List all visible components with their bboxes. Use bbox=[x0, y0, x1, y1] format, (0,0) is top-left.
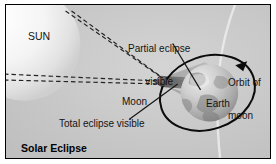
partial-eclipse-label-line1: Partial eclipse bbox=[128, 43, 190, 54]
figure-caption: Solar Eclipse bbox=[21, 143, 87, 154]
total-eclipse-label: Total eclipse visible bbox=[59, 118, 145, 129]
orbit-label-line1: Orbit of bbox=[228, 77, 261, 88]
sun-label: SUN bbox=[28, 31, 50, 42]
orbit-of-moon-label: Orbit of moon bbox=[228, 55, 261, 143]
earth-label: Earth bbox=[206, 98, 230, 109]
partial-eclipse-label-line2: visible bbox=[128, 76, 190, 87]
figure-frame: SUN Partial eclipse visible Orbit of moo… bbox=[5, 4, 271, 159]
orbit-label-line2: moon bbox=[228, 110, 261, 121]
figure-root: SUN Partial eclipse visible Orbit of moo… bbox=[0, 0, 276, 164]
moon-label: Moon bbox=[122, 96, 147, 107]
